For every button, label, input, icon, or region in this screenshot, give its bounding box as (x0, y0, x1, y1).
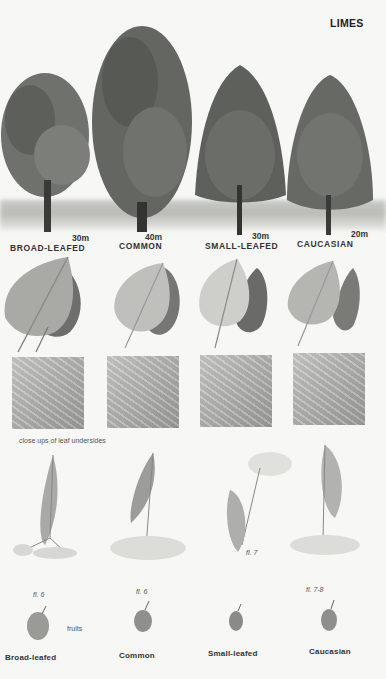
species-name-broad-leafed: Broad-leafed (5, 653, 56, 662)
flowering-label-broad-leafed: fl. 6 (33, 591, 44, 598)
tree-label-caucasian: CAUCASIAN (297, 239, 353, 249)
leaf-illustration-common (105, 258, 190, 348)
tree-illustration-small-leafed (193, 65, 288, 235)
leaf-illustration-broad-leafed (0, 252, 95, 352)
flower-sprig-common (103, 448, 193, 558)
height-label-small-leafed: 30m (252, 231, 269, 241)
tree-label-small-leafed: SMALL-LEAFED (205, 241, 278, 251)
leaf-illustration-caucasian (283, 256, 363, 346)
species-name-common: Common (119, 651, 155, 660)
species-name-small-leafed: Small-leafed (208, 649, 258, 658)
leaf-closeup-broad-leafed (12, 357, 84, 429)
species-name-caucasian: Caucasian (309, 647, 351, 656)
fruits-caption: fruits (67, 625, 82, 632)
tree-label-common: COMMON (119, 241, 162, 251)
fruit-small-leafed (227, 604, 247, 632)
tree-illustration-broad-leafed (0, 60, 100, 230)
leaf-closeup-small-leafed (200, 355, 272, 427)
fruit-common (132, 601, 156, 633)
height-label-broad-leafed: 30m (72, 233, 89, 243)
flower-sprig-caucasian (285, 440, 370, 555)
leaf-closeup-caucasian (293, 353, 365, 425)
fruit-broad-leafed (24, 606, 54, 642)
tree-illustration-caucasian (285, 75, 375, 235)
leaf-illustration-small-leafed (195, 256, 275, 348)
leaf-closeup-common (107, 356, 179, 428)
tree-illustration-common (90, 22, 195, 232)
flowering-label-common: fl. 6 (136, 588, 147, 595)
height-label-caucasian: 20m (351, 229, 368, 239)
flowering-label-caucasian: fl. 7-8 (306, 586, 324, 593)
flowering-label-small-leafed: fl. 7 (246, 549, 257, 556)
closeup-caption: close ups of leaf undersides (19, 437, 106, 444)
page-title: LIMES (330, 17, 364, 29)
fruit-caucasian (319, 600, 341, 632)
flower-sprig-broad-leafed (5, 450, 90, 560)
